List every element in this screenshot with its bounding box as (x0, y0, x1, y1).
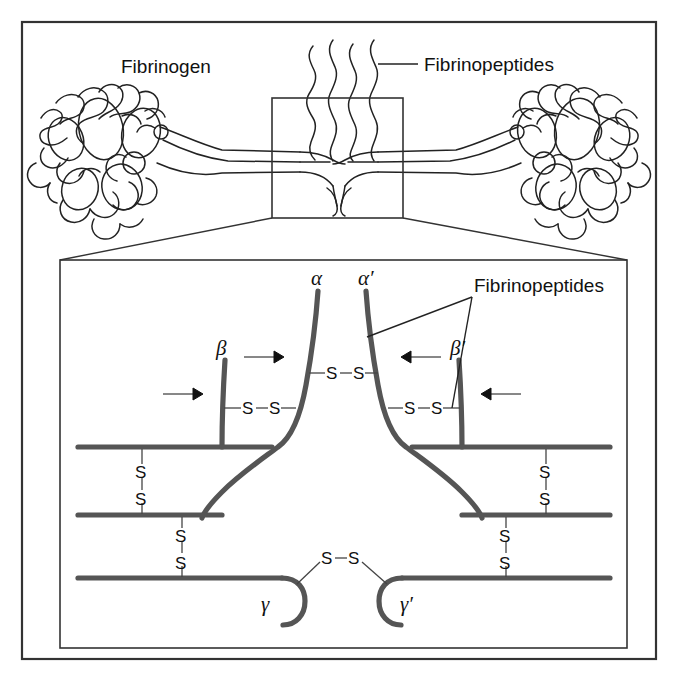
alpha-chain (202, 291, 318, 518)
ss-gamma-gamma-center: S S (297, 549, 387, 584)
beta-prime-label: β′ (449, 336, 465, 360)
gamma-prime-label: γ′ (400, 592, 413, 616)
ss-label-right: S (431, 399, 442, 418)
fibrinopeptides-top-label: Fibrinopeptides (424, 54, 554, 75)
ss-label-right: S (348, 549, 359, 568)
ss-left-lower-vertical: S S (175, 517, 186, 577)
alpha-prime-label: α′ (358, 266, 374, 290)
fibrinopeptide-strands-top (307, 40, 378, 161)
fibrinopeptides-detail-label: Fibrinopeptides (474, 275, 604, 296)
cleavage-arrow-beta-left (163, 388, 203, 400)
ss-label-top: S (499, 527, 510, 546)
outer-frame (22, 22, 656, 659)
fibrinopeptide-tails-lower (327, 186, 351, 216)
right-coiled-coil (378, 127, 521, 174)
ss-beta-alpha-left: S S (224, 399, 296, 418)
alpha-label: α (311, 266, 323, 290)
figure-canvas: Fibrinogen Fibrinopeptides (0, 0, 678, 681)
ss-label-right: S (269, 399, 280, 418)
cleavage-arrow-beta-right (481, 388, 521, 400)
beta-prime-chain (459, 360, 462, 447)
ss-label-bottom: S (135, 490, 146, 509)
ss-alpha-alpha-upper: S S (309, 364, 378, 383)
right-globular-domain (510, 85, 650, 240)
ss-label-top: S (539, 463, 550, 482)
ss-label-left: S (321, 549, 332, 568)
beta-label: β (215, 336, 227, 360)
top-panel-fibrinogen: Fibrinogen Fibrinopeptides (28, 40, 651, 239)
ss-label-left: S (404, 399, 415, 418)
ss-left-upper-vertical: S S (135, 449, 146, 514)
ss-right-lower-vertical: S S (499, 517, 510, 577)
ss-label-top: S (175, 527, 186, 546)
beta-chain (222, 360, 225, 447)
ss-label-right: S (353, 364, 364, 383)
detail-panel-frame (60, 260, 627, 648)
ss-label-bottom: S (175, 554, 186, 573)
fibrinogen-label: Fibrinogen (121, 56, 211, 77)
ss-label-bottom: S (539, 490, 550, 509)
ss-label-left: S (242, 399, 253, 418)
ss-right-upper-vertical: S S (539, 449, 550, 514)
ss-label-bottom: S (499, 554, 510, 573)
gamma-prime-hook (379, 578, 402, 625)
ss-label-left: S (326, 364, 337, 383)
gamma-label: γ (261, 592, 270, 616)
detail-panel: S S S S S S (60, 260, 627, 648)
left-coiled-coil (157, 127, 300, 174)
ss-beta-alpha-right: S S (388, 399, 460, 418)
cleavage-arrow-alpha-right (401, 351, 441, 363)
alpha-prime-chain (366, 291, 482, 518)
inset-box (272, 98, 403, 218)
expansion-lines (60, 218, 627, 260)
gamma-hook (282, 578, 305, 625)
fibrinogen-figure: Fibrinogen Fibrinopeptides (0, 0, 678, 681)
cleavage-arrow-alpha-left (244, 351, 284, 363)
left-globular-domain (28, 85, 168, 240)
ss-label-top: S (135, 463, 146, 482)
